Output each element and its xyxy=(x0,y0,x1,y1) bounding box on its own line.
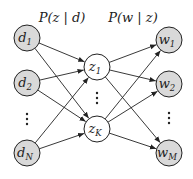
edge-d2-z1 xyxy=(40,70,84,80)
word-node-w1: w1 xyxy=(156,27,182,53)
edge-z1-w2 xyxy=(110,70,156,81)
word-node-wM: wM xyxy=(156,140,182,166)
ellipsis-words xyxy=(168,112,170,124)
plsa-graphical-model: P(z | d) P(w | z) d1d2dNz1zKw1w2wM xyxy=(0,0,193,179)
header-p-w-given-z: P(w | z) xyxy=(107,10,158,25)
edge-d1-z1 xyxy=(39,43,85,62)
word-node-w2: w2 xyxy=(156,71,182,97)
ellipsis-documents xyxy=(26,113,28,125)
topic-node-z1: z1 xyxy=(84,54,110,80)
header-p-z-given-d: P(z | d) xyxy=(38,10,86,25)
document-node-d1: d1 xyxy=(14,25,40,51)
nodes: d1d2dNz1zKw1w2wM xyxy=(14,25,182,166)
ellipsis-topics xyxy=(96,92,98,104)
document-node-d2: d2 xyxy=(14,70,40,96)
edge-d2-zK xyxy=(38,90,86,121)
edge-z1-wM xyxy=(105,77,160,143)
topic-node-zK: zK xyxy=(84,116,110,142)
edge-zK-wM xyxy=(109,133,156,149)
edge-dN-z1 xyxy=(35,77,88,142)
edge-z1-w1 xyxy=(109,45,156,63)
document-node-dN: dN xyxy=(14,140,40,166)
edge-dN-zK xyxy=(39,133,84,148)
edge-d1-zK xyxy=(35,48,89,118)
